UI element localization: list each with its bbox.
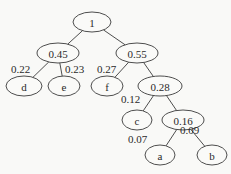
edge-n028-n016 (166, 96, 176, 111)
tree-node-f: f (91, 76, 123, 96)
edge-root-n055 (104, 30, 126, 45)
tree-node-n045: 0.45 (37, 43, 79, 63)
weight-labels: 0.220.230.270.120.070.09 (11, 63, 200, 145)
weight-label-f: 0.27 (97, 63, 117, 75)
tree-node-n055: 0.55 (116, 43, 158, 63)
tree-node-a: a (145, 145, 175, 165)
weight-label-b: 0.09 (180, 124, 200, 136)
edge-n055-n028 (144, 62, 154, 76)
tree-node-e: e (48, 76, 80, 96)
edge-n045-e (60, 63, 62, 76)
node-label: f (105, 81, 109, 93)
tree-node-d: d (6, 76, 42, 96)
tree-node-n028: 0.28 (138, 76, 182, 96)
node-label: 0.55 (127, 48, 147, 60)
weight-label-e: 0.23 (65, 63, 85, 75)
node-label: c (135, 115, 140, 127)
tree-node-b: b (197, 145, 227, 165)
edge-root-n045 (68, 31, 83, 44)
tree-node-c: c (122, 110, 152, 130)
weight-label-c: 0.12 (121, 93, 140, 105)
node-label: b (209, 150, 215, 162)
node-label: 0.28 (150, 81, 170, 93)
edge-n045-d (33, 62, 49, 77)
weight-label-a: 0.07 (128, 133, 148, 145)
tree-nodes: 10.450.55def0.28c0.16ab (6, 12, 227, 165)
node-label: a (158, 150, 163, 162)
node-label: d (21, 81, 27, 93)
node-label: e (62, 81, 67, 93)
huffman-tree-diagram: 10.450.55def0.28c0.16ab 0.220.230.270.12… (0, 0, 231, 174)
weight-label-d: 0.22 (11, 63, 30, 75)
edge-n055-f (115, 62, 129, 77)
tree-node-root: 1 (73, 12, 111, 32)
edge-n016-a (166, 130, 177, 146)
node-label: 1 (89, 17, 95, 29)
node-label: 0.45 (48, 48, 68, 60)
edge-n028-c (143, 96, 153, 111)
